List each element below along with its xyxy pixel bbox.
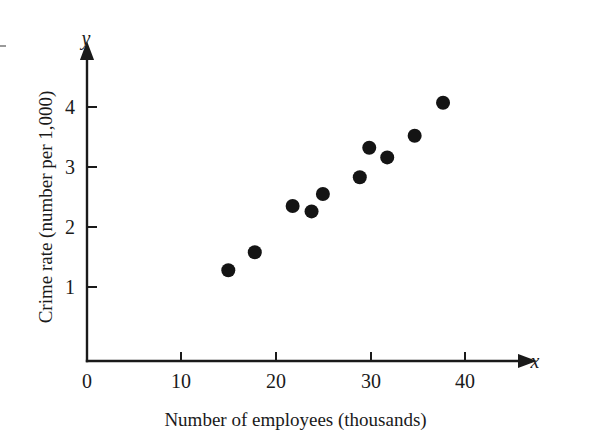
data-point [353, 170, 367, 184]
data-point [221, 263, 235, 277]
plot-canvas: 0 10 20 30 40 1 2 3 4 x y [0, 0, 591, 446]
y-tick-label-2: 2 [65, 216, 75, 238]
y-tick-label-3: 3 [65, 156, 75, 178]
data-point [380, 150, 394, 164]
data-point [316, 187, 330, 201]
data-point [286, 199, 300, 213]
x-axis-variable-label: x [530, 350, 540, 372]
data-point [305, 204, 319, 218]
x-axis-title: Number of employees (thousands) [0, 409, 591, 431]
y-axis-ticks [87, 107, 97, 287]
x-tick-label-40: 40 [455, 370, 475, 392]
x-tick-label-10: 10 [171, 370, 191, 392]
y-tick-label-1: 1 [65, 276, 75, 298]
data-point [248, 245, 262, 259]
x-axis-ticks [181, 352, 465, 361]
x-tick-label-30: 30 [361, 370, 381, 392]
data-point [436, 96, 450, 110]
data-point [408, 129, 422, 143]
y-axis-variable-label: y [80, 27, 91, 50]
y-tick-label-4: 4 [65, 96, 75, 118]
x-tick-label-0: 0 [82, 370, 92, 392]
data-points-layer [221, 96, 450, 277]
y-axis-title: Crime rate (number per 1,000) [35, 57, 57, 357]
x-tick-label-20: 20 [266, 370, 286, 392]
scatter-plot-figure: 0 10 20 30 40 1 2 3 4 x y Number of empl… [0, 0, 591, 446]
data-point [362, 141, 376, 155]
